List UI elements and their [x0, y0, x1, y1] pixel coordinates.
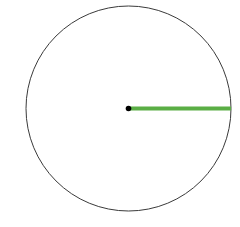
circle-diagram — [0, 0, 240, 227]
center-point — [126, 106, 132, 112]
